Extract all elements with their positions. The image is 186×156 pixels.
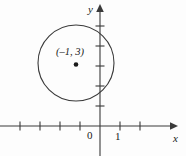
- y-axis-label: y: [88, 4, 93, 15]
- y-axis-arrow-icon: [96, 4, 104, 12]
- center-point-marker: [74, 62, 79, 67]
- x-axis-arrow-icon: [170, 122, 178, 130]
- center-point-label: (–1, 3): [56, 47, 84, 58]
- x-tick-label-one: 1: [115, 131, 121, 142]
- x-axis-label: x: [173, 133, 178, 144]
- figure-canvas: [0, 0, 186, 156]
- coordinate-plane-figure: y x 0 1 (–1, 3): [0, 0, 186, 156]
- origin-tick-label: 0: [87, 130, 93, 141]
